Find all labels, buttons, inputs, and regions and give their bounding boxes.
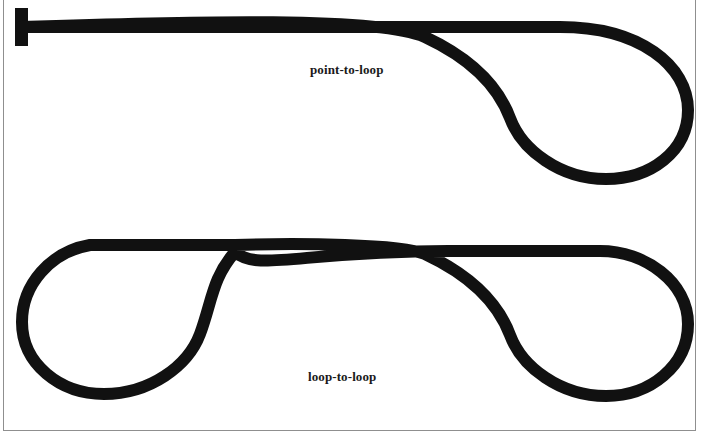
point-to-loop-stroke (21, 22, 688, 179)
caption-loop-to-loop: loop-to-loop (308, 369, 376, 385)
figure-page: point-to-loop loop-to-loop (0, 0, 710, 446)
caption-point-to-loop: point-to-loop (310, 62, 384, 78)
diagram-point-to-loop (15, 8, 688, 179)
